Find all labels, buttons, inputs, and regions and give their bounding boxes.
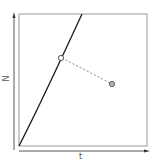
diagram-canvas: [0, 0, 154, 166]
x-axis-arrow: [19, 150, 150, 153]
y-axis-arrow: [13, 12, 16, 150]
dashed-link: [62, 58, 112, 84]
y-axis-label: N: [2, 76, 11, 82]
x-axis-label: t: [79, 152, 82, 161]
filled-circle-marker: [109, 81, 114, 86]
plot-frame: [19, 14, 147, 146]
curve-line: [19, 14, 82, 146]
open-circle-marker: [58, 55, 63, 60]
